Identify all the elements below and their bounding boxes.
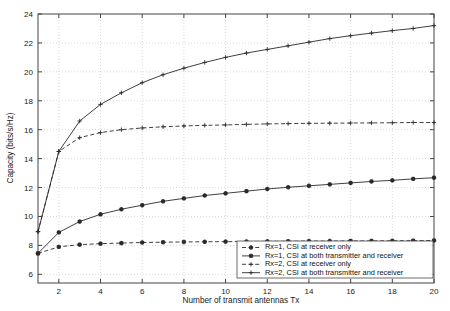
- capacity-vs-antennas-chart: 6810121416182022242468101214161820 Rx=1,…: [0, 0, 450, 311]
- x-tick-label: 10: [221, 287, 230, 296]
- star-marker-icon: [249, 254, 253, 258]
- x-axis-label: Number of transmit antennas Tx: [183, 296, 300, 305]
- figure-container: 6810121416182022242468101214161820 Rx=1,…: [0, 0, 450, 311]
- x-tick-label: 12: [263, 287, 272, 296]
- x-tick-label: 8: [182, 287, 187, 296]
- y-tick-label: 24: [24, 10, 33, 19]
- legend-entry-3[interactable]: Rx=2, CSI at both transmitter and receiv…: [242, 268, 404, 277]
- y-tick-label: 6: [29, 270, 34, 279]
- chart-legend[interactable]: Rx=1, CSI at receiver onlyRx=1, CSI at b…: [237, 241, 433, 278]
- x-tick-label: 20: [430, 287, 439, 296]
- x-tick-label: 6: [140, 287, 145, 296]
- legend-label: Rx=2, CSI at both transmitter and receiv…: [265, 268, 404, 277]
- x-tick-label: 16: [346, 287, 355, 296]
- y-tick-label: 14: [24, 155, 33, 164]
- y-tick-label: 20: [24, 68, 33, 77]
- y-tick-label: 10: [24, 212, 33, 221]
- x-tick-label: 14: [304, 287, 313, 296]
- y-tick-label: 8: [29, 241, 34, 250]
- y-tick-label: 12: [24, 184, 33, 193]
- y-tick-label: 18: [24, 97, 33, 106]
- y-axis-label: Capacity (bits/s/Hz): [6, 112, 15, 183]
- y-tick-label: 22: [24, 39, 33, 48]
- x-tick-label: 4: [98, 287, 103, 296]
- x-tick-label: 18: [388, 287, 397, 296]
- x-tick-label: 2: [57, 287, 62, 296]
- star-marker-icon: [249, 245, 253, 249]
- y-tick-label: 16: [24, 126, 33, 135]
